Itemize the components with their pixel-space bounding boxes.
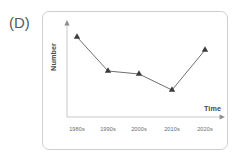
x-tick-label-1990s: 1990s (100, 126, 116, 132)
x-tick-label-2000s: 2000s (131, 126, 147, 132)
x-tick-label-1980s: 1980s (69, 126, 85, 132)
x-axis-arrow-icon (220, 114, 225, 119)
y-axis-arrow-icon (64, 20, 69, 25)
series-line-number (77, 37, 205, 90)
figure-root: (D) Number Time 1980s 1990 (0, 0, 238, 160)
panel-label: (D) (9, 14, 30, 32)
chart-frame: Number Time 1980s 1990s 2000s 2010s 2020… (42, 11, 228, 150)
y-axis-title: Number (49, 43, 58, 71)
x-tick-label-2010s: 2010s (164, 126, 180, 132)
x-tick-label-2020s: 2020s (197, 126, 213, 132)
data-point-marker[interactable] (136, 70, 142, 76)
line-chart: Number Time 1980s 1990s 2000s 2010s 2020… (43, 12, 229, 151)
x-axis-title: Time (204, 104, 221, 113)
data-point-marker[interactable] (74, 33, 80, 39)
data-point-marker[interactable] (202, 46, 208, 52)
